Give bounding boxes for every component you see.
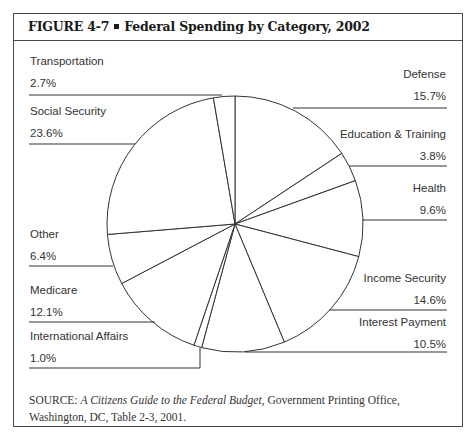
slice-label-education-training: Education & Training [340,128,446,140]
slice-value-health: 9.6% [420,204,446,216]
pie-slices [107,96,363,352]
slice-label-international-affairs: International Affairs [30,330,128,342]
pie-chart: Defense15.7%Education & Training3.8%Heal… [0,0,474,436]
slice-value-social-security: 23.6% [30,127,63,139]
slice-value-education-training: 3.8% [420,150,446,162]
slice-value-international-affairs: 1.0% [30,352,56,364]
slice-label-defense: Defense [403,68,446,80]
pie-slice-social-security [107,98,235,235]
slice-label-income-security: Income Security [364,272,447,284]
slice-value-transportation: 2.7% [30,77,56,89]
source-prefix: SOURCE: [29,394,80,406]
slice-label-health: Health [413,182,446,194]
source-title: A Citizens Guide to the Federal Budget, [80,394,264,406]
slice-label-transportation: Transportation [30,55,104,67]
slice-value-other: 6.4% [30,250,56,262]
slice-label-other: Other [30,228,59,240]
slice-value-medicare: 12.1% [30,306,63,318]
slice-label-social-security: Social Security [30,105,106,117]
slice-label-medicare: Medicare [30,284,77,296]
slice-value-income-security: 14.6% [413,294,446,306]
slice-label-interest-payment: Interest Payment [359,316,447,328]
source-note: SOURCE: A Citizens Guide to the Federal … [29,392,449,426]
slice-value-defense: 15.7% [413,90,446,102]
slice-value-interest-payment: 10.5% [413,338,446,350]
